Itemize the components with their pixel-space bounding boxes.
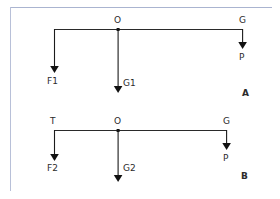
diagram-page: F1 G1 P O G A [0,0,280,199]
panel-a-center-force-label: G1 [123,78,136,88]
panel-b: F2 G2 P T O G B [47,116,248,182]
panel-b-left-node-label: T [49,116,56,126]
panel-a-label: A [242,88,249,98]
panel-b-right-force-arrow [222,130,231,150]
panel-b-center-node-label: O [114,116,121,126]
panel-b-left-force-label: F2 [47,163,58,173]
panel-b-center-force-label: G2 [123,163,136,173]
panel-a-left-force-label: F1 [47,76,58,86]
panel-b-left-force-arrow [50,130,59,161]
panel-a-right-force-label: P [239,52,245,62]
panel-a-left-force-arrow [50,29,59,73]
panel-a-right-force-arrow [238,29,247,49]
panel-b-label: B [241,171,248,181]
panel-b-right-node-label: G [223,116,230,126]
panel-b-right-force-label: P [223,153,229,163]
force-diagram-svg: F1 G1 P O G A [0,0,280,199]
panel-a-right-node-label: G [239,15,246,25]
panel-a: F1 G1 P O G A [47,15,249,98]
panel-b-center-force-arrow [114,130,123,182]
panel-a-center-force-arrow [114,29,123,93]
panel-a-center-node-label: O [114,15,121,25]
